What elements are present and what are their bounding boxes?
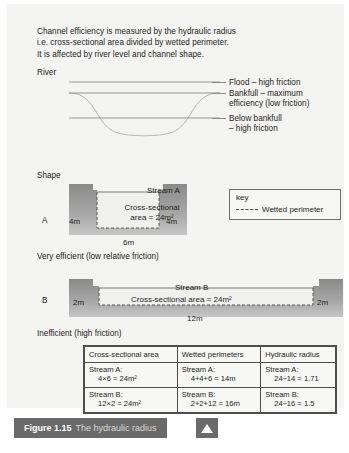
cell-label: Stream A: <box>265 365 298 374</box>
below-bankfull-label-line-2: – high friction <box>229 124 349 134</box>
cell-perimeter-stream-b: Stream B: 2+2+12 = 16m <box>177 387 261 412</box>
key-title: key <box>236 193 248 202</box>
cell-value: 12×2 = 24m² <box>89 399 173 409</box>
table-header-row: Cross-sectional area Wetted perimeters H… <box>85 347 336 363</box>
stream-b-width: 12m <box>187 314 203 323</box>
stream-b-left-depth: 2m <box>73 298 84 307</box>
below-bankfull-label: Below bankfull – high friction <box>229 114 349 134</box>
key-box: key Wetted perimeter <box>229 189 341 220</box>
bankfull-label: Bankfull – maximum efficiency (low frict… <box>229 89 349 109</box>
cell-label: Stream B: <box>265 390 299 399</box>
cell-value: 4+4+6 = 14m <box>182 374 257 384</box>
dashed-line-icon <box>236 209 258 210</box>
intro-text: Channel efficiency is measured by the hy… <box>37 26 327 60</box>
stream-a-right-depth: 4m <box>166 217 177 226</box>
figure-marker-button[interactable] <box>196 418 218 438</box>
intro-line-3: It is affected by river level and channe… <box>37 49 327 60</box>
table-row: Stream A: 4×6 = 24m² Stream A: 4+4+6 = 1… <box>85 362 336 387</box>
cell-area-stream-a: Stream A: 4×6 = 24m² <box>85 362 178 387</box>
cell-perimeter-stream-a: Stream A: 4+4+6 = 14m <box>177 362 261 387</box>
flood-label: Flood – high friction <box>229 78 349 88</box>
intro-line-2: i.e. cross-sectional area divided by wet… <box>37 37 327 48</box>
bankfull-label-line-1: Bankfull – maximum <box>229 89 349 99</box>
page-panel: Channel efficiency is measured by the hy… <box>7 4 344 408</box>
cell-label: Stream A: <box>89 365 122 374</box>
key-entry-row: Wetted perimeter <box>236 205 323 214</box>
results-table: Cross-sectional area Wetted perimeters H… <box>84 346 336 413</box>
cell-value: 24÷14 = 1.71 <box>265 374 331 384</box>
stream-a-note: Very efficient (low relative friction) <box>37 252 159 261</box>
stream-b-title: Stream B <box>175 283 208 292</box>
stream-b-note: Inefficient (high friction) <box>37 329 122 338</box>
hydraulic-radius-table: Cross-sectional area Wetted perimeters H… <box>83 345 337 414</box>
below-bankfull-leader-line <box>212 118 226 119</box>
river-section-label: River <box>37 68 56 77</box>
cell-label: Stream B: <box>89 390 123 399</box>
river-svg <box>69 80 220 152</box>
intro-line-1: Channel efficiency is measured by the hy… <box>37 26 327 37</box>
cell-radius-stream-a: Stream A: 24÷14 = 1.71 <box>261 362 336 387</box>
cell-value: 24÷16 = 1.5 <box>265 399 331 409</box>
figure-title: The hydraulic radius <box>76 423 157 433</box>
stream-a-width: 6m <box>123 238 134 247</box>
flood-leader-line <box>212 82 226 83</box>
river-cross-section-diagram <box>69 80 220 152</box>
stream-a-letter: A <box>42 216 47 225</box>
bankfull-leader-line <box>212 93 226 94</box>
stream-a-left-depth: 4m <box>69 217 80 226</box>
cell-label: Stream A: <box>182 365 215 374</box>
header-hydraulic-radius: Hydraulic radius <box>261 347 336 363</box>
triangle-up-icon <box>201 424 213 433</box>
key-entry-label: Wetted perimeter <box>262 205 323 214</box>
stream-a-title: Stream A <box>147 186 180 195</box>
bankfull-label-line-2: efficiency (low friction) <box>229 99 349 109</box>
figure-number: Figure 1.15 <box>24 423 72 433</box>
cell-radius-stream-b: Stream B: 24÷16 = 1.5 <box>261 387 336 412</box>
stream-b-letter: B <box>42 296 47 305</box>
stream-b-area: Cross-sectional area = 24m² <box>131 295 232 304</box>
stream-b-right-depth: 2m <box>317 298 328 307</box>
figure-caption-bar: Figure 1.15 The hydraulic radius <box>14 418 167 438</box>
cell-value: 4×6 = 24m² <box>89 374 173 384</box>
cell-label: Stream B: <box>182 390 216 399</box>
cell-value: 2+2+12 = 16m <box>182 399 257 409</box>
cell-area-stream-b: Stream B: 12×2 = 24m² <box>85 387 178 412</box>
header-wetted-perimeters: Wetted perimeters <box>177 347 261 363</box>
shape-section-label: Shape <box>37 171 61 180</box>
below-bankfull-label-line-1: Below bankfull <box>229 114 349 124</box>
stream-a-area-line-1: Cross-sectional <box>119 203 185 212</box>
header-cross-sectional-area: Cross-sectional area <box>85 347 178 363</box>
table-row: Stream B: 12×2 = 24m² Stream B: 2+2+12 =… <box>85 387 336 412</box>
river-channel-void <box>69 93 220 152</box>
